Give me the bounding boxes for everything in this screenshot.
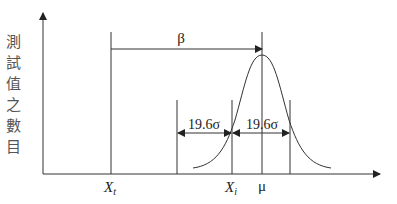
right-interval-label: 19.6σ bbox=[246, 117, 279, 132]
xi-label: Xi bbox=[224, 179, 237, 197]
distribution-diagram: β 19.6σ 19.6σ Xt Xi μ bbox=[0, 0, 397, 204]
left-interval-label: 19.6σ bbox=[188, 117, 221, 132]
mu-label: μ bbox=[258, 178, 266, 194]
xt-label: Xt bbox=[103, 179, 116, 197]
beta-label: β bbox=[177, 30, 185, 46]
